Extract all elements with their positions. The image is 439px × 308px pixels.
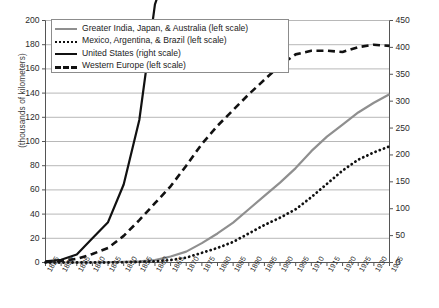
y-axis-left-label: 160: [18, 63, 40, 73]
y-axis-right-label: 350: [396, 69, 420, 79]
y-axis-left-label: 120: [18, 112, 40, 122]
black-solid-line-icon: [55, 48, 77, 58]
y-axis-right-label: 250: [396, 123, 420, 133]
legend-item[interactable]: Western Europe (left scale): [55, 60, 288, 73]
gray-solid-line-icon: [55, 23, 77, 33]
legend-item[interactable]: Mexico, Argentina, & Brazil (left scale): [55, 35, 288, 48]
legend-item[interactable]: United States (right scale): [55, 47, 288, 60]
legend-item[interactable]: Greater India, Japan, & Australia (left …: [55, 22, 288, 35]
figure-caption: [22, 299, 432, 308]
y-axis-right-label: 450: [396, 15, 420, 25]
legend-item-label: Mexico, Argentina, & Brazil (left scale): [82, 36, 227, 45]
y-axis-right-label: 300: [396, 96, 420, 106]
y-axis-left-label: 100: [18, 136, 40, 146]
series-line-2: [46, 146, 390, 262]
y-axis-left-label: 20: [18, 233, 40, 243]
series-line-4: [46, 45, 390, 262]
black-dotted-line-icon: [55, 36, 77, 46]
y-axis-left-label: 200: [18, 15, 40, 25]
series-line-1: [46, 94, 390, 262]
legend-item-label: United States (right scale): [82, 49, 181, 58]
y-axis-right-label: 400: [396, 42, 420, 52]
y-axis-right-label: 150: [396, 176, 420, 186]
legend-item-label: Greater India, Japan, & Australia (left …: [82, 24, 248, 33]
legend-item-label: Western Europe (left scale): [82, 61, 186, 70]
chart-figure: (thousands of kilometers) 02040608010012…: [0, 0, 439, 308]
y-axis-left-label: 180: [18, 39, 40, 49]
black-dashed-line-icon: [55, 61, 77, 71]
y-axis-left-label: 40: [18, 209, 40, 219]
y-axis-right-label: 100: [396, 203, 420, 213]
chart-legend: Greater India, Japan, & Australia (left …: [51, 19, 289, 73]
y-axis-right-label: 200: [396, 149, 420, 159]
y-axis-left-label: 60: [18, 184, 40, 194]
y-axis-left-label: 80: [18, 160, 40, 170]
y-axis-left-label: 140: [18, 88, 40, 98]
y-axis-left-label: 0: [18, 257, 40, 267]
y-axis-right-label: 50: [396, 230, 420, 240]
